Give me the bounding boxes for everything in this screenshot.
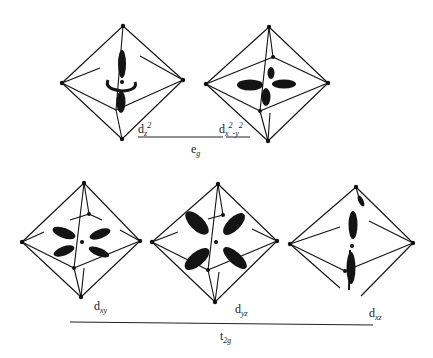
label-dx2y2-tail: -y (233, 129, 239, 138)
octahedron-dxy (20, 181, 142, 299)
diagram-canvas (0, 0, 433, 358)
t2g-underline (70, 322, 373, 325)
label-dxz-sub: xz (375, 313, 382, 322)
label-dx2y2-sub: x (225, 129, 229, 138)
octahedron-dz2 (60, 24, 185, 141)
label-dxy-sub: xy (100, 306, 107, 315)
label-dyz: dyz (235, 303, 248, 318)
label-dxy: dxy (94, 300, 107, 315)
orbital-diagram: dz2 dx2-y2 eg dxy dyz dxz t2g (0, 0, 433, 358)
label-eg: eg (191, 143, 200, 158)
label-dz2: dz2 (138, 122, 151, 138)
label-dyz-sub: yz (241, 309, 248, 318)
label-dx2y2-tail-sup: 2 (239, 121, 243, 130)
label-t2g-sub: 2g (223, 336, 231, 345)
label-eg-sub: g (196, 149, 200, 158)
label-t2g: t2g (220, 330, 231, 345)
dxz-lobes (347, 195, 366, 290)
dxy-lobes (51, 224, 112, 260)
label-dz2-sub: z (144, 129, 147, 138)
label-dz2-sup: 2 (147, 121, 151, 130)
label-dxz: dxz (369, 307, 382, 322)
octahedron-dyz (150, 182, 279, 304)
octahedron-dxz (288, 185, 415, 296)
label-dx2-y2: dx2-y2 (219, 122, 243, 138)
